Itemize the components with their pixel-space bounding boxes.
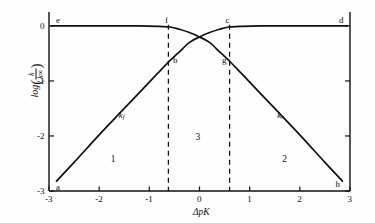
curve-k_r <box>52 26 343 181</box>
y-tick-label: 0 <box>40 21 45 31</box>
curve-label-subscript: f <box>123 113 125 120</box>
axis-ticks <box>49 26 350 191</box>
y-tick-label: -2 <box>37 131 45 141</box>
point-label-a: a <box>56 182 60 192</box>
x-tick-label: 2 <box>297 194 302 204</box>
chart-figure: log(kk∞) -3-2-101230-1-2-3abcdefgh123kfk… <box>0 0 375 223</box>
dashed-guide-lines <box>168 25 229 191</box>
point-label-e: e <box>56 15 60 25</box>
x-tick-label: -3 <box>45 194 53 204</box>
point-label-g: g <box>222 55 227 65</box>
point-label-b: b <box>173 55 178 65</box>
y-tick-label: -1 <box>37 76 45 86</box>
point-label-f: f <box>165 15 168 25</box>
x-axis-label: ΔpK <box>193 207 210 217</box>
x-tick-label: 3 <box>348 194 353 204</box>
y-tick-label: -3 <box>37 186 45 196</box>
plot-frame <box>49 12 350 191</box>
region-label-3: 3 <box>195 132 200 142</box>
x-tick-label: -1 <box>145 194 153 204</box>
y-axis-log-text: log <box>29 85 40 98</box>
y-axis-numerator: k <box>28 68 36 79</box>
data-curves <box>52 26 348 181</box>
y-axis-paren-close: ) <box>28 63 44 68</box>
curve-label-kf: kf <box>119 110 125 120</box>
x-tick-label: 1 <box>247 194 252 204</box>
region-label-2: 2 <box>282 154 287 164</box>
x-tick-label: -2 <box>95 194 103 204</box>
point-label-h: h <box>335 179 340 189</box>
point-label-c: c <box>226 15 230 25</box>
region-label-1: 1 <box>111 154 116 164</box>
x-tick-label: 0 <box>197 194 202 204</box>
point-label-d: d <box>339 15 344 25</box>
curve-label-subscript: r <box>281 113 284 120</box>
curve-k_f <box>57 26 348 181</box>
curve-label-kr: kr <box>277 110 284 120</box>
